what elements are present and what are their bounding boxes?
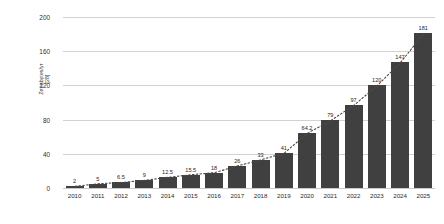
x-axis-tick-label: 2018	[249, 192, 272, 199]
x-axis-labels: 2010201120122013201420152016201720182019…	[63, 192, 435, 206]
x-axis-tick-label: 2022	[342, 192, 365, 199]
plot-area: 04080120160200 256.5912.515.51826334164.…	[63, 17, 435, 188]
x-axis-tick-label: 2012	[110, 192, 133, 199]
x-axis-tick-label: 2019	[272, 192, 295, 199]
bar[interactable]	[275, 153, 293, 188]
bar[interactable]	[135, 180, 153, 188]
bar[interactable]	[228, 166, 246, 188]
bar-group[interactable]: 41	[272, 17, 295, 188]
bar-group[interactable]: 6.5	[110, 17, 133, 188]
bar-group[interactable]: 97	[342, 17, 365, 188]
x-axis-tick-label: 2023	[365, 192, 388, 199]
bar-group[interactable]: 12.5	[156, 17, 179, 188]
bar[interactable]	[66, 186, 84, 188]
bar-group[interactable]: 15.5	[179, 17, 202, 188]
x-axis-tick-label: 2014	[156, 192, 179, 199]
bar-group[interactable]: 64.2	[296, 17, 319, 188]
y-axis-tick-label: 120	[22, 82, 50, 89]
bar[interactable]	[414, 33, 432, 188]
x-axis-tick-label: 2011	[86, 192, 109, 199]
x-axis-tick-label: 2016	[203, 192, 226, 199]
x-axis-tick-label: 2025	[412, 192, 435, 199]
bar-value-label: 181	[408, 25, 439, 31]
x-axis-tick-label: 2020	[296, 192, 319, 199]
bar-group[interactable]: 181	[412, 17, 435, 188]
bar[interactable]	[112, 182, 130, 188]
bar[interactable]	[205, 173, 223, 188]
bar-group[interactable]: 9	[133, 17, 156, 188]
x-axis-tick-label: 2013	[133, 192, 156, 199]
bar[interactable]	[298, 133, 316, 188]
y-axis-title-text: Zettabytes/yr	[38, 63, 44, 94]
x-axis-tick-label: 2015	[179, 192, 202, 199]
y-axis-tick-label: 80	[22, 116, 50, 123]
bar[interactable]	[182, 175, 200, 188]
y-axis-tick-label: 200	[22, 14, 50, 21]
x-axis-tick-label: 2017	[226, 192, 249, 199]
bar[interactable]	[368, 85, 386, 188]
bar-group[interactable]: 2	[63, 17, 86, 188]
gridline	[63, 188, 435, 189]
y-axis-tick-label: 0	[22, 185, 50, 192]
bars-layer: 256.5912.515.51826334164.27997120147181	[63, 17, 435, 188]
bar[interactable]	[159, 177, 177, 188]
bar-group[interactable]: 33	[249, 17, 272, 188]
bar-group[interactable]: 120	[365, 17, 388, 188]
bar-group[interactable]: 26	[226, 17, 249, 188]
x-axis-tick-label: 2010	[63, 192, 86, 199]
x-axis-tick-label: 2024	[389, 192, 412, 199]
y-axis-tick-label: 40	[22, 150, 50, 157]
bar-group[interactable]: 5	[86, 17, 109, 188]
bar[interactable]	[252, 160, 270, 188]
bar[interactable]	[89, 184, 107, 188]
bar-group[interactable]: 147	[389, 17, 412, 188]
bar[interactable]	[321, 120, 339, 188]
bar-chart: Zettabytes/yr [28] 04080120160200 256.59…	[0, 0, 444, 224]
y-axis-tick-label: 160	[22, 48, 50, 55]
x-axis-tick-label: 2021	[319, 192, 342, 199]
bar[interactable]	[391, 62, 409, 188]
bar[interactable]	[345, 105, 363, 188]
